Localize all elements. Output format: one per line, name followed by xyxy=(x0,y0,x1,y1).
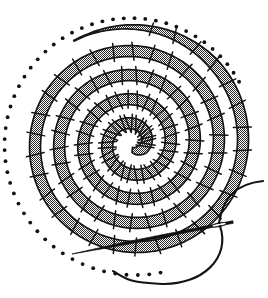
guide-dot xyxy=(174,25,178,29)
guide-dot xyxy=(5,170,9,174)
guide-dot xyxy=(80,26,84,30)
guide-dot xyxy=(44,50,48,54)
guide-dot xyxy=(70,31,74,35)
guide-dot xyxy=(17,84,21,88)
guide-dot xyxy=(35,229,39,233)
guide-dot xyxy=(71,257,75,261)
guide-dot xyxy=(6,115,10,119)
guide-dot xyxy=(17,202,21,206)
guide-dot xyxy=(133,16,137,20)
guide-dot xyxy=(61,36,65,40)
guide-dot xyxy=(101,19,105,23)
guide-dot xyxy=(29,66,33,70)
guide-dot xyxy=(194,34,198,38)
guide-dot xyxy=(184,29,188,33)
stitch-tick xyxy=(122,66,123,84)
guide-dot xyxy=(36,57,40,61)
guide-dot xyxy=(237,80,241,84)
guide-dot xyxy=(81,262,85,266)
guide-dot xyxy=(202,40,206,44)
guide-dot xyxy=(211,47,215,51)
guide-dot xyxy=(143,17,147,21)
guide-dot xyxy=(28,221,32,225)
guide-dot xyxy=(125,273,129,277)
guide-dot xyxy=(61,251,65,255)
guide-dot xyxy=(147,272,151,276)
figure-canvas: Coiled spiral with stitching and threade… xyxy=(0,0,268,298)
spiral-band-group xyxy=(30,25,249,253)
stitch-tick xyxy=(98,147,116,148)
stitch-tick xyxy=(184,153,202,154)
guide-dot xyxy=(159,271,163,275)
guide-dot xyxy=(102,269,106,273)
guide-dot xyxy=(136,273,140,277)
guide-dot xyxy=(8,181,12,185)
guide-dot xyxy=(154,19,158,23)
guide-dot xyxy=(52,245,56,249)
stitch-tick xyxy=(99,141,117,143)
guide-dot xyxy=(43,237,47,241)
guide-dot xyxy=(12,94,16,98)
guide-dot xyxy=(122,16,126,20)
guide-dot xyxy=(225,62,229,66)
guide-dot xyxy=(23,75,27,79)
guide-dot xyxy=(90,22,94,26)
guide-dot xyxy=(9,105,13,109)
stitch-tick xyxy=(136,115,137,133)
stitch-tick xyxy=(233,150,251,151)
guide-dot xyxy=(3,137,7,141)
spiral-illustration: Coiled spiral with stitching and threade… xyxy=(0,0,268,298)
guide-dot xyxy=(3,148,7,152)
guide-dot xyxy=(4,159,8,163)
stitch-tick xyxy=(233,127,251,128)
guide-dot xyxy=(4,126,8,130)
guide-dot xyxy=(52,43,56,47)
stitch-tick xyxy=(131,114,132,132)
guide-dot xyxy=(12,192,16,196)
guide-dot xyxy=(164,21,168,25)
guide-dot xyxy=(232,71,236,75)
guide-dot xyxy=(22,211,26,215)
guide-dot xyxy=(91,266,95,270)
guide-dot xyxy=(111,17,115,21)
